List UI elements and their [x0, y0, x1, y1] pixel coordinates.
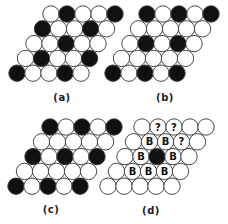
black-disc	[139, 6, 155, 22]
white-disc	[33, 134, 49, 150]
white-disc	[130, 21, 146, 37]
white-disc	[91, 6, 107, 22]
white-disc	[187, 6, 203, 22]
black-disc	[149, 148, 165, 164]
white-disc	[32, 163, 48, 179]
black-disc	[105, 65, 121, 81]
panel-label-c: (c)	[43, 204, 60, 215]
white-disc	[41, 65, 57, 81]
white-disc	[129, 50, 145, 66]
black-disc	[137, 65, 153, 81]
white-disc	[50, 21, 66, 37]
white-disc	[98, 21, 114, 37]
b-mark: B	[129, 166, 137, 177]
white-disc	[178, 21, 194, 37]
white-disc	[113, 50, 129, 66]
white-disc	[116, 178, 132, 194]
white-disc	[194, 21, 210, 37]
b-mark: B	[161, 166, 169, 177]
b-mark: B	[145, 166, 153, 177]
white-disc	[189, 134, 205, 150]
black-disc	[107, 6, 123, 22]
question-mark: ?	[179, 136, 185, 147]
white-disc	[43, 6, 59, 22]
white-disc	[182, 119, 198, 135]
black-disc	[8, 178, 24, 194]
white-disc	[42, 35, 58, 51]
black-disc	[40, 178, 56, 194]
white-disc	[90, 119, 106, 135]
white-disc	[65, 50, 81, 66]
white-disc	[73, 65, 89, 81]
b-mark: B	[146, 136, 154, 147]
white-disc	[172, 163, 188, 179]
white-disc	[65, 134, 81, 150]
white-disc	[164, 178, 180, 194]
black-disc	[34, 21, 50, 37]
white-disc	[122, 35, 138, 51]
question-mark: ?	[171, 122, 177, 133]
white-disc	[148, 178, 164, 194]
black-disc	[59, 6, 75, 22]
white-disc	[58, 119, 74, 135]
black-disc	[9, 65, 25, 81]
black-disc	[106, 119, 122, 135]
panel-label-a: (a)	[53, 92, 70, 103]
white-disc	[49, 134, 65, 150]
white-disc	[49, 50, 65, 66]
question-mark: ?	[155, 122, 161, 133]
white-disc	[162, 21, 178, 37]
b-mark: B	[162, 136, 170, 147]
white-disc	[81, 134, 97, 150]
white-disc	[25, 65, 41, 81]
white-disc	[66, 21, 82, 37]
black-disc	[25, 148, 41, 164]
white-disc	[48, 163, 64, 179]
black-disc	[74, 119, 90, 135]
lattice-figure: ??BB?BBBBB	[0, 0, 228, 224]
white-disc	[198, 119, 214, 135]
black-disc	[203, 6, 219, 22]
black-disc	[89, 148, 105, 164]
white-disc	[80, 163, 96, 179]
white-disc	[100, 178, 116, 194]
white-disc	[155, 6, 171, 22]
white-disc	[117, 148, 133, 164]
white-disc	[186, 35, 202, 51]
white-disc	[75, 6, 91, 22]
white-disc	[17, 50, 33, 66]
white-disc	[145, 50, 161, 66]
white-disc	[41, 148, 57, 164]
white-disc	[56, 178, 72, 194]
white-disc	[181, 148, 197, 164]
white-disc	[108, 163, 124, 179]
panel-label-d: (d)	[142, 205, 160, 216]
white-disc	[132, 178, 148, 194]
white-disc	[74, 35, 90, 51]
white-disc	[26, 35, 42, 51]
white-disc	[153, 65, 169, 81]
white-disc	[16, 163, 32, 179]
black-disc	[58, 35, 74, 51]
b-mark: B	[169, 151, 177, 162]
panel-label-b: (b)	[156, 92, 174, 103]
black-disc	[57, 148, 73, 164]
white-disc	[64, 163, 80, 179]
black-disc	[57, 65, 73, 81]
white-disc	[177, 50, 193, 66]
black-disc	[82, 21, 98, 37]
black-disc	[171, 6, 187, 22]
black-disc	[81, 50, 97, 66]
white-disc	[90, 35, 106, 51]
black-disc	[169, 65, 185, 81]
black-disc	[170, 35, 186, 51]
white-disc	[161, 50, 177, 66]
black-disc	[72, 178, 88, 194]
white-disc	[24, 178, 40, 194]
black-disc	[138, 35, 154, 51]
white-disc	[121, 65, 137, 81]
white-disc	[73, 148, 89, 164]
black-disc	[33, 50, 49, 66]
white-disc	[97, 134, 113, 150]
white-disc	[154, 35, 170, 51]
